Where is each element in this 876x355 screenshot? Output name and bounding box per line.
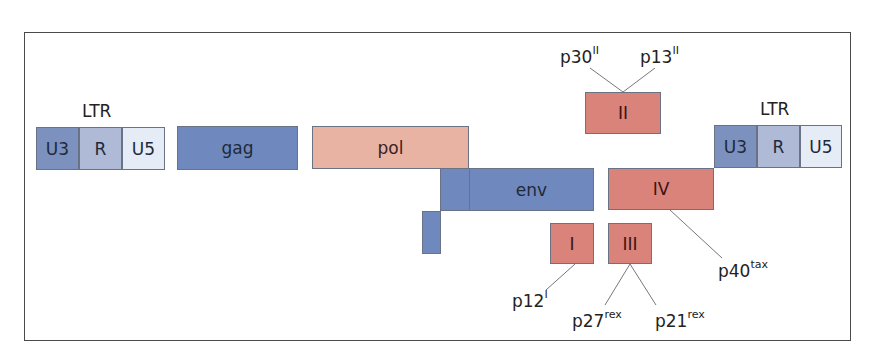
diagram-frame [24, 32, 851, 341]
protein-p13-label: p13II [640, 46, 679, 67]
ltr-right-u5: U5 [800, 125, 842, 168]
ltr-left-r: R [79, 127, 122, 170]
ltr-right-r: R [757, 125, 800, 168]
protein-p27-label: p27rex [572, 310, 622, 331]
ltr-right-title: LTR [760, 99, 789, 119]
protein-p40-label: p40tax [718, 260, 768, 281]
gene-III: III [608, 223, 652, 264]
protein-p21-label: p21rex [655, 310, 705, 331]
protein-p12-label: p12I [512, 290, 548, 311]
ltr-left-title: LTR [82, 101, 111, 121]
gene-IV: IV [608, 168, 714, 210]
gene-env-splice-exon [422, 211, 441, 254]
protein-p30-label: p30II [560, 46, 599, 67]
gene-env-overlap [440, 168, 470, 211]
gene-II: II [585, 92, 661, 134]
ltr-left-u5: U5 [122, 127, 165, 170]
ltr-left-u3: U3 [36, 127, 79, 170]
gene-gag: gag [177, 126, 298, 170]
gene-env: env [469, 168, 594, 211]
gene-I: I [550, 223, 594, 264]
gene-pol: pol [312, 126, 469, 169]
ltr-right-u3: U3 [714, 125, 757, 168]
